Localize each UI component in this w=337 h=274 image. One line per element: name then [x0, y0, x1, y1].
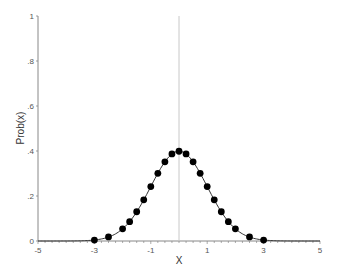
y-tick-label: .2 [27, 192, 34, 201]
x-tick-label: -5 [34, 246, 42, 255]
data-point [119, 225, 126, 232]
x-axis-label: X [176, 255, 183, 266]
x-tick-label: 5 [318, 246, 323, 255]
data-point [91, 237, 98, 244]
data-point [162, 158, 169, 165]
data-point [204, 183, 211, 190]
data-point [190, 158, 197, 165]
x-tick-label: -1 [147, 246, 155, 255]
y-axis-label: Prob(x) [15, 112, 26, 145]
data-point [232, 225, 239, 232]
data-point [154, 170, 161, 177]
data-point [218, 208, 225, 215]
y-tick-label: 1 [30, 12, 35, 21]
data-point [140, 196, 147, 203]
data-point [225, 218, 232, 225]
x-tick-label: 1 [205, 246, 210, 255]
axes: -5-3-11350.2.4.6.81 [27, 12, 322, 255]
data-point [211, 196, 218, 203]
data-point [147, 183, 154, 190]
data-point [169, 151, 176, 158]
data-point [176, 148, 183, 155]
normal-distribution-chart: -5-3-11350.2.4.6.81 X Prob(x) [0, 0, 337, 274]
data-point [246, 234, 253, 241]
data-point [197, 170, 204, 177]
x-tick-label: -3 [91, 246, 99, 255]
data-point [260, 237, 267, 244]
y-tick-label: 0 [30, 237, 35, 246]
data-point [126, 218, 133, 225]
data-point [105, 234, 112, 241]
y-tick-label: .6 [27, 102, 34, 111]
y-tick-label: .8 [27, 57, 34, 66]
x-tick-label: 3 [261, 246, 266, 255]
data-point [133, 208, 140, 215]
y-tick-label: .4 [27, 147, 34, 156]
data-point [183, 151, 190, 158]
